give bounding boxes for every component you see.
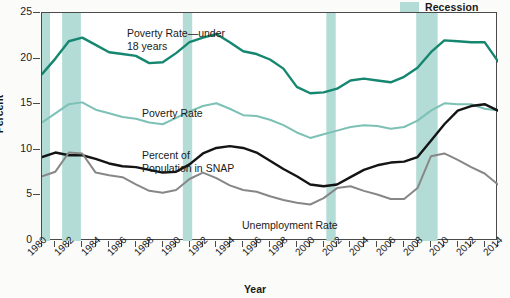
y-tick-mark bbox=[33, 58, 40, 59]
chart-svg bbox=[42, 13, 498, 241]
annotation-snap: Percent of Population in SNAP bbox=[142, 149, 234, 174]
y-tick-mark bbox=[33, 103, 40, 104]
y-tick-label: 0 bbox=[0, 233, 32, 245]
chart-container: Recession Percent Poverty Rate—under 18 … bbox=[0, 0, 510, 298]
y-tick-label: 10 bbox=[0, 142, 32, 154]
annotation-poverty: Poverty Rate bbox=[142, 107, 203, 120]
recession-band bbox=[326, 13, 335, 241]
y-tick-label: 20 bbox=[0, 51, 32, 63]
y-tick-mark bbox=[33, 149, 40, 150]
plot-area: Poverty Rate—under 18 years Poverty Rate… bbox=[41, 12, 497, 240]
recession-legend-swatch bbox=[400, 2, 419, 13]
x-axis-title: Year bbox=[0, 283, 510, 295]
y-tick-label: 25 bbox=[0, 5, 32, 17]
y-tick-mark bbox=[33, 12, 40, 13]
y-tick-label: 15 bbox=[0, 96, 32, 108]
y-tick-label: 5 bbox=[0, 187, 32, 199]
recession-band bbox=[42, 13, 50, 241]
recession-band bbox=[416, 13, 437, 241]
y-tick-mark bbox=[33, 194, 40, 195]
annotation-child-poverty: Poverty Rate—under 18 years bbox=[127, 27, 225, 52]
annotation-unemployment: Unemployment Rate bbox=[242, 219, 338, 232]
